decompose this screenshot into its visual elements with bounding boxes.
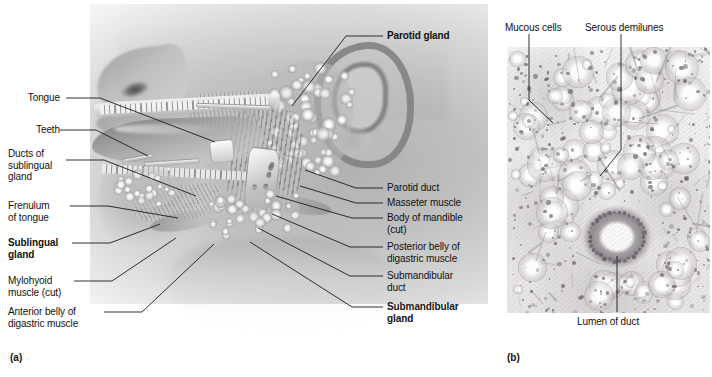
cell-nucleus — [586, 119, 589, 122]
cell-nucleus — [571, 148, 574, 151]
cell-nucleus — [707, 90, 710, 94]
cell-nucleus — [600, 121, 603, 124]
label-submandibular-duct: Submandibular duct — [387, 270, 491, 293]
cell-nucleus — [524, 63, 528, 67]
cell-nucleus — [656, 299, 660, 303]
gland-lobule — [222, 227, 230, 235]
mucous-acinus — [511, 169, 522, 180]
cell-nucleus — [678, 163, 680, 165]
label-posterior-belly-of-digastric-muscle: Posterior belly of digastric muscle — [387, 241, 491, 264]
gland-lobule — [235, 213, 245, 223]
cell-nucleus — [618, 62, 622, 66]
gland-lobule — [209, 220, 217, 228]
cell-nucleus — [637, 144, 640, 147]
cell-nucleus — [579, 166, 582, 169]
gland-lobule — [335, 113, 348, 126]
cell-nucleus — [535, 305, 537, 307]
cell-nucleus — [709, 124, 710, 129]
cell-nucleus — [573, 310, 577, 313]
cell-nucleus — [633, 154, 637, 158]
cell-nucleus — [539, 65, 542, 68]
label-tongue: Tongue — [8, 92, 60, 104]
mandibular-ramus-cut — [209, 139, 235, 163]
cell-nucleus — [588, 66, 592, 70]
cell-nucleus — [519, 94, 521, 96]
label-mylohyoid-muscle-cut: Mylohyoid muscle (cut) — [8, 275, 78, 298]
cell-nucleus — [653, 50, 657, 54]
cell-nucleus — [561, 132, 564, 135]
cell-nucleus — [617, 87, 621, 91]
cell-nucleus — [683, 263, 685, 265]
cell-nucleus — [649, 171, 652, 174]
caption-panel-b: (b) — [507, 352, 520, 363]
label-body-of-mandible-cut: Body of mandible (cut) — [387, 212, 491, 235]
cell-nucleus — [652, 97, 654, 99]
cell-nucleus — [664, 262, 666, 264]
gland-lobule — [285, 203, 291, 209]
connective-tissue-strand — [571, 273, 573, 288]
cell-nucleus — [667, 231, 670, 234]
cell-nucleus — [557, 235, 561, 239]
mandible-foramen — [270, 162, 276, 168]
gland-lobule — [254, 217, 265, 228]
cell-nucleus — [588, 86, 590, 88]
gland-lobule — [270, 70, 278, 78]
cell-nucleus — [704, 144, 706, 146]
cell-nucleus — [689, 165, 692, 168]
caption-panel-a: (a) — [10, 352, 22, 363]
cell-nucleus — [676, 232, 678, 234]
cell-nucleus — [635, 308, 637, 310]
gland-lobule — [265, 189, 275, 199]
gland-lobule — [226, 204, 238, 216]
gland-lobule — [124, 176, 134, 186]
cell-nucleus — [520, 244, 522, 246]
cell-nucleus — [522, 80, 525, 83]
mucous-acinus — [600, 142, 612, 154]
label-parotid-duct: Parotid duct — [387, 182, 487, 194]
gland-lobule — [216, 195, 225, 204]
cell-nucleus — [555, 55, 557, 57]
cell-nucleus — [589, 198, 591, 200]
cell-nucleus — [600, 311, 602, 313]
cell-nucleus — [669, 257, 671, 259]
cell-nucleus — [646, 176, 651, 181]
cell-nucleus — [560, 72, 563, 75]
cell-nucleus — [684, 176, 688, 180]
gland-lobule — [313, 62, 327, 76]
cell-nucleus — [674, 285, 677, 288]
cell-nucleus — [710, 213, 711, 217]
cell-nucleus — [514, 76, 518, 80]
cell-nucleus — [642, 299, 646, 303]
label-submandibular-gland: Submandibular gland — [387, 301, 491, 324]
gland-lobule — [156, 201, 162, 207]
cell-nucleus — [513, 214, 516, 217]
cell-nucleus — [547, 71, 550, 74]
cell-nucleus — [566, 72, 570, 76]
gland-lobule — [132, 169, 143, 180]
cell-nucleus — [566, 223, 568, 225]
cell-nucleus — [629, 144, 633, 148]
cell-nucleus — [513, 137, 516, 140]
cell-nucleus — [689, 227, 692, 230]
cell-nucleus — [552, 237, 554, 239]
cell-nucleus — [606, 291, 610, 295]
cell-nucleus — [692, 123, 695, 126]
gland-lobule — [282, 223, 292, 233]
cell-nucleus — [703, 300, 705, 302]
gland-lobule — [323, 74, 333, 84]
panel-b-micrograph: Mucous cells Serous demilunes Lumen of d… — [497, 0, 712, 377]
cell-nucleus — [600, 50, 603, 53]
cell-nucleus — [525, 311, 529, 313]
gland-lobule — [288, 65, 297, 74]
cell-nucleus — [514, 126, 516, 128]
gland-lobule — [156, 183, 163, 190]
cell-nucleus — [546, 253, 550, 257]
cell-nucleus — [548, 90, 550, 92]
cell-nucleus — [625, 291, 629, 295]
cell-nucleus — [596, 89, 599, 92]
cell-nucleus — [683, 217, 687, 221]
cell-nucleus — [564, 260, 567, 263]
cell-nucleus — [627, 135, 631, 139]
cell-nucleus — [709, 144, 710, 147]
cell-nucleus — [527, 86, 532, 91]
